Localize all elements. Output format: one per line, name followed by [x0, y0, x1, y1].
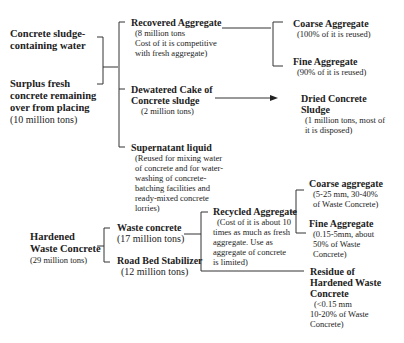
source-surplus-fresh: Surplus fresh concrete remaining over fr… [10, 78, 96, 126]
sources-bracket [97, 37, 103, 84]
fine-aggregate-hardened: Fine Aggregate (0.15-5mm, about 50% of W… [309, 218, 374, 259]
branch-bracket [119, 22, 125, 147]
hardened-bracket [104, 228, 110, 262]
recycled-aggregate: Recycled Aggregate (Cost of it is about … [213, 206, 297, 267]
dewatered-cake: Dewatered Cake of Concrete sludge (2 mil… [131, 84, 212, 116]
arrow-right-icon [270, 95, 278, 101]
aggregate-split-bracket [273, 22, 283, 66]
recovered-aggregate: Recovered Aggregate (8 million tons Cost… [131, 17, 221, 58]
coarse-aggregate-fresh: Coarse Aggregate (100% of it is reused) [293, 18, 371, 39]
waste-concrete: Waste concrete (17 million tons) [117, 222, 184, 245]
fine-aggregate-fresh: Fine Aggregate (90% of it is reused) [293, 56, 366, 77]
residue-hardened-waste: Residue of Hardened Waste Concrete (<0.1… [310, 266, 381, 329]
coarse-aggregate-hardened: Coarse aggregate (5-25 mm, 30-40% of Was… [309, 178, 383, 209]
dried-concrete-sludge: Dried Concrete Sludge (1 million tons, m… [301, 93, 385, 135]
supernatant-liquid: Supernatant liquid (Reused for mixing wa… [131, 142, 223, 213]
source-sludge-water: Concrete sludge- containing water [10, 28, 86, 52]
source-hardened-waste: Hardened Waste Concrete (29 million tons… [30, 231, 101, 265]
recycled-to-fine-line [296, 212, 306, 233]
recycling-flow-diagram: Concrete sludge- containing water Surplu… [0, 0, 404, 343]
road-bed-stabilizer: Road Bed Stabilizer (12 million tons) [117, 255, 203, 278]
